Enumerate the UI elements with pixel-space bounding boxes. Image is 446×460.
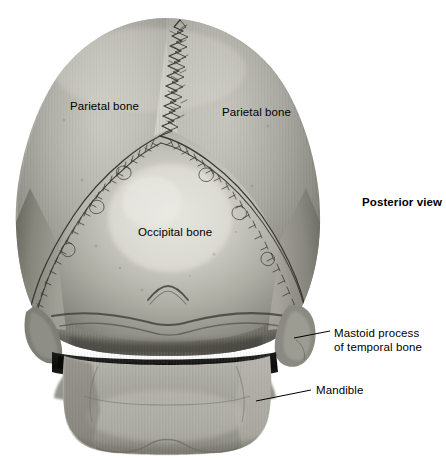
label-parietal-bone-right: Parietal bone <box>222 105 291 119</box>
label-mastoid-process: Mastoid process of temporal bone <box>334 326 422 354</box>
label-mastoid-process-line2: of temporal bone <box>334 340 422 354</box>
label-mastoid-process-line1: Mastoid process <box>334 326 422 340</box>
label-parietal-bone-left: Parietal bone <box>70 99 139 113</box>
mandible-body <box>50 350 290 460</box>
skull-illustration <box>0 0 446 460</box>
label-occipital-bone: Occipital bone <box>138 225 212 239</box>
label-mandible: Mandible <box>316 383 363 397</box>
figure-page: Parietal bone Parietal bone Occipital bo… <box>0 0 446 460</box>
label-posterior-view: Posterior view <box>362 195 442 209</box>
